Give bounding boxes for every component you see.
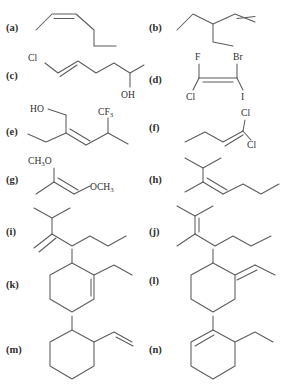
structure-tag-d: (d)	[149, 74, 162, 85]
structure-drawing-a	[32, 2, 136, 48]
structure-drawing-l	[171, 255, 283, 318]
structure-cell-n: (n)	[143, 318, 285, 386]
structure-tag-e: (e)	[6, 126, 18, 137]
bond-to-och3	[74, 186, 90, 194]
structure-drawing-j	[169, 200, 285, 255]
bond-methyl	[185, 182, 203, 192]
bond-ethyl	[235, 332, 273, 342]
structure-tag-n: (n)	[149, 344, 162, 355]
structure-cell-c: (c) Cl OH	[0, 48, 142, 100]
atom-label-cf3: CF3	[98, 106, 114, 118]
structure-drawing-i	[26, 200, 142, 255]
cyclohexane-ring	[191, 263, 235, 312]
skeletal-svg-i	[26, 200, 142, 255]
double-bond-inner	[195, 335, 214, 346]
structure-tag-a: (a)	[6, 22, 18, 33]
structure-cell-e: (e) HO CF3	[0, 100, 142, 152]
atom-label-f: F	[195, 51, 200, 62]
double-bond-outer	[54, 182, 74, 194]
cyclohexene-ring	[191, 330, 235, 379]
bond-chain	[36, 14, 116, 46]
atom-label-oh: OH	[121, 89, 135, 100]
cyclohexene-ring	[50, 263, 94, 312]
double-bond-outer	[235, 265, 255, 275]
skeletal-svg-l	[171, 255, 283, 318]
skeletal-svg-h	[177, 152, 283, 200]
structure-tag-j: (j)	[149, 226, 160, 237]
structure-row-7: (m) (n)	[0, 318, 285, 386]
skeletal-svg-e: HO CF3	[24, 100, 142, 152]
structure-cell-b: (b)	[143, 0, 285, 48]
atom-label-ho: HO	[30, 103, 44, 114]
bond-ho-ch2	[48, 109, 66, 115]
double-bond-inner	[207, 178, 227, 190]
double-bond-inner	[39, 238, 56, 252]
double-bond-inner	[237, 270, 257, 280]
atom-label-br: Br	[233, 51, 243, 62]
structure-row-2: (c) Cl OH (d) F Br	[0, 48, 285, 100]
structure-drawing-n	[171, 320, 283, 384]
bond-upper-branches	[177, 206, 213, 216]
structure-tag-i: (i)	[6, 226, 16, 237]
structure-cell-i: (i)	[0, 200, 142, 255]
double-bond-outer	[203, 182, 223, 194]
double-bond-inner	[70, 129, 90, 141]
structure-row-6: (k) (l)	[0, 255, 285, 318]
bond-propyl-chain	[223, 184, 279, 194]
bond-right-vinyl	[213, 14, 255, 24]
structure-tag-l: (l)	[149, 275, 159, 286]
structure-cell-f: (f) Cl Cl	[143, 100, 285, 152]
bond-terminal-methyl	[108, 133, 128, 144]
structure-drawing-e: HO CF3	[24, 100, 142, 152]
bond-ethyl	[94, 265, 132, 275]
structure-tag-h: (h)	[149, 174, 162, 185]
structure-tag-f: (f)	[149, 122, 160, 133]
skeletal-svg-f: Cl Cl	[181, 104, 281, 152]
atom-label-cl-bottom: Cl	[247, 139, 256, 150]
structure-drawing-m	[30, 320, 142, 384]
double-bond-inner	[225, 135, 243, 146]
structure-drawing-g: CH3O OCH3	[24, 152, 142, 200]
bond-c-i	[237, 78, 243, 90]
cyclohexane-ring	[50, 330, 94, 379]
worksheet-sheet: (a) (b) (c)	[0, 0, 285, 386]
structure-drawing-d: F Br Cl I	[185, 48, 279, 100]
bond-isopropyl	[185, 158, 221, 168]
skeletal-svg-c: Cl OH	[26, 48, 142, 100]
structure-drawing-f: Cl Cl	[181, 104, 281, 152]
structure-cell-h: (h)	[143, 152, 285, 200]
structure-cell-l: (l)	[143, 255, 285, 318]
structure-cell-m: (m)	[0, 318, 142, 386]
structure-drawing-h	[177, 152, 283, 200]
bond-ethyl-branch	[28, 133, 66, 142]
bond-butyl-chain	[52, 234, 126, 246]
skeletal-svg-a	[32, 2, 136, 48]
structure-cell-d: (d) F Br Cl I	[143, 48, 285, 100]
double-bond-outer	[66, 133, 86, 145]
atom-label-cl: Cl	[28, 52, 37, 63]
skeletal-svg-g: CH3O OCH3	[24, 152, 142, 200]
atom-label-och3: OCH3	[90, 181, 114, 193]
structure-row-1: (a) (b)	[0, 0, 285, 48]
structure-drawing-k	[30, 255, 142, 318]
structure-tag-c: (c)	[6, 70, 18, 81]
bond-methyl-lower	[177, 234, 195, 246]
bond-terminal-methyl	[130, 65, 144, 73]
structure-cell-a: (a)	[0, 0, 142, 48]
skeletal-svg-n	[171, 320, 283, 384]
structure-tag-m: (m)	[6, 344, 22, 355]
skeletal-svg-k	[30, 255, 142, 318]
structure-tag-g: (g)	[6, 174, 18, 185]
bond-chain	[45, 61, 130, 87]
bond-vinyl	[94, 332, 132, 342]
structure-cell-k: (k)	[0, 255, 142, 318]
bond-c-cl	[193, 78, 199, 90]
structure-tag-k: (k)	[6, 279, 19, 290]
structure-row-5: (i) (j)	[0, 200, 285, 255]
skeletal-svg-m	[30, 320, 142, 384]
double-bond-inner	[58, 178, 78, 190]
skeletal-svg-d: F Br Cl I	[185, 48, 279, 100]
bond-c-cl-top	[243, 120, 245, 131]
skeletal-svg-j	[169, 200, 285, 255]
structure-drawing-b	[173, 2, 283, 48]
